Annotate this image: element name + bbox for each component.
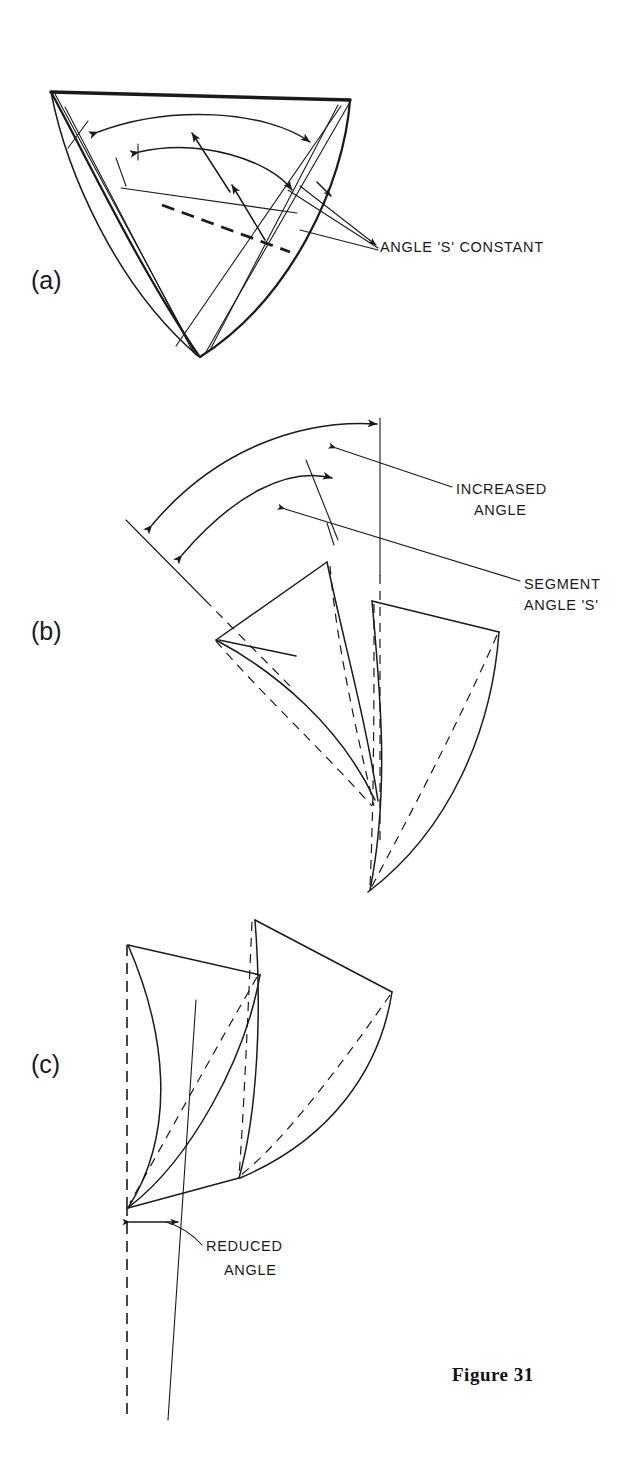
figure-31-root: (a) (b) (c) ANGLE 'S' CONSTANT INCREASED… xyxy=(0,0,644,1460)
panel-c-right-blade-ridge xyxy=(255,920,392,992)
figure-drawing: (a) (b) (c) ANGLE 'S' CONSTANT INCREASED… xyxy=(0,0,644,1460)
panel-b-right-blade-outer-curve xyxy=(368,632,499,892)
panel-b-increased-angle-arc xyxy=(152,423,377,525)
label-increased-angle-line2: ANGLE xyxy=(474,502,527,518)
panel-c-right-blade-hidden-2 xyxy=(239,922,252,1176)
panel-a-top-edge xyxy=(51,92,350,100)
panel-c-right-blade-inner-curve xyxy=(239,920,258,1178)
panel-b-segment-angle-arc xyxy=(182,475,332,555)
panel-b-increased-angle-leader xyxy=(336,448,452,487)
panel-c-left-blade-ridge xyxy=(128,945,260,975)
label-increased-angle-line1: INCREASED xyxy=(456,481,547,497)
panel-b-inner-radius xyxy=(306,460,338,540)
panel-a-ray-short xyxy=(121,188,297,213)
label-segment-angle-line1: SEGMENT xyxy=(524,576,601,592)
panel-a-chord-3 xyxy=(206,102,350,352)
panel-b-right-blade-hidden-1 xyxy=(371,635,497,888)
panel-a-chord-4 xyxy=(211,105,338,348)
figure-text-layer: (a) (b) (c) ANGLE 'S' CONSTANT INCREASED… xyxy=(31,239,601,1385)
panel-letter-c: (c) xyxy=(31,1050,60,1078)
panel-a-outer-angle-arc xyxy=(98,115,310,142)
panel-b-right-blade-ridge xyxy=(372,601,499,632)
panel-b-left-blade-ridge xyxy=(216,562,327,640)
panel-a-ray-arrow-2 xyxy=(232,185,265,240)
panel-b-left-blade-hidden-1 xyxy=(216,641,372,806)
label-reduced-angle-line1: REDUCED xyxy=(206,1238,283,1254)
panel-a-ray-arrow-1 xyxy=(192,133,230,192)
panel-b-left-blade-hidden-2 xyxy=(330,566,374,806)
panel-a-tick-left2 xyxy=(116,158,126,186)
panel-a-chord-2 xyxy=(65,107,193,352)
label-angle-s-constant: ANGLE 'S' CONSTANT xyxy=(380,239,544,255)
panel-b-left-blade-inner-curve xyxy=(327,562,378,801)
panel-letter-b: (b) xyxy=(31,617,62,645)
panel-b-segment-angle-leader xyxy=(285,509,520,581)
panel-a-leader-upper xyxy=(288,190,378,248)
panel-a-ray-upper xyxy=(176,106,341,346)
label-reduced-angle-line2: ANGLE xyxy=(224,1262,277,1278)
panel-a-drawing xyxy=(51,92,378,357)
panel-b-left-radius xyxy=(126,520,205,600)
panel-letter-a: (a) xyxy=(31,266,62,294)
label-segment-angle-line2: ANGLE 'S' xyxy=(524,597,599,613)
panel-b-left-blade-lower-curve xyxy=(216,640,375,800)
panel-a-dashed-chord xyxy=(162,205,290,252)
panel-a-chord-1 xyxy=(55,94,196,355)
panel-b-right-blade-hidden-2 xyxy=(370,604,374,886)
panel-c-right-blade-outer-curve xyxy=(240,992,392,1178)
panel-a-leader-arrow xyxy=(300,186,376,245)
panel-c-left-blade-outer-curve xyxy=(128,945,161,1208)
figure-caption: Figure 31 xyxy=(452,1364,534,1385)
panel-c-right-blade-hidden-1 xyxy=(241,995,390,1175)
panel-c-left-blade-hidden xyxy=(130,977,257,1203)
panel-c-slant-reference xyxy=(168,1000,196,1420)
panel-c-reduced-angle-leader xyxy=(166,1222,202,1245)
panel-c-drawing xyxy=(127,920,392,1420)
